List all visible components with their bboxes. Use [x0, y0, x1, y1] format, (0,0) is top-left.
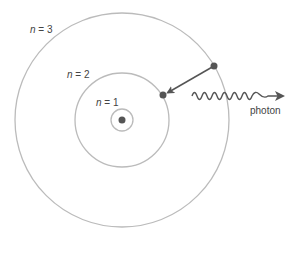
orbit-label-n3: n = 3	[30, 24, 53, 35]
orbit-label-n1: n = 1	[96, 97, 119, 108]
photon-label: photon	[250, 105, 281, 116]
orbit-label-n2: n = 2	[67, 69, 90, 80]
transition-arrow	[168, 66, 214, 93]
electron-final	[160, 92, 167, 99]
photon-wave-icon	[192, 92, 282, 99]
orbit-label-n1-eq: = 1	[102, 97, 119, 108]
electron-initial	[211, 63, 218, 70]
bohr-model-diagram: n = 3 n = 2 n = 1 photon	[0, 0, 301, 257]
orbit-label-n3-eq: = 3	[36, 24, 53, 35]
orbit-label-n2-eq: = 2	[73, 69, 90, 80]
nucleus	[119, 117, 126, 124]
